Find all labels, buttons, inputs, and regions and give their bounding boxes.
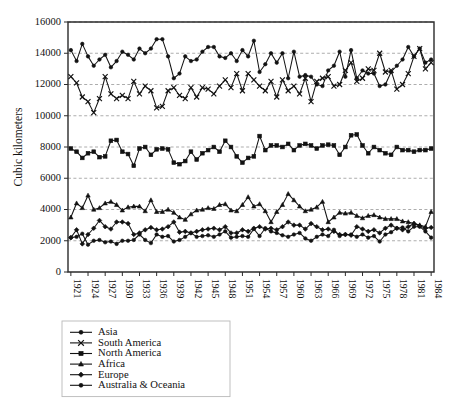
x-tick-label: 1936: [158, 279, 169, 298]
data-point-circle: [69, 48, 73, 52]
data-point-square: [241, 161, 245, 165]
x-tick-label: 1969: [347, 279, 358, 298]
data-point-square: [126, 152, 130, 156]
data-point-circle: [366, 236, 370, 240]
data-point-circle: [149, 47, 153, 51]
data-point-circle: [218, 55, 222, 59]
data-point-square: [86, 151, 90, 155]
data-point-circle: [92, 64, 96, 68]
data-point-square: [321, 144, 325, 148]
data-point-square: [161, 147, 165, 151]
data-point-circle: [126, 53, 130, 57]
data-point-square: [303, 142, 307, 146]
data-point-circle: [143, 238, 147, 242]
chart-legend: AsiaSouth AmericaNorth AmericaAfricaEuro…: [62, 321, 230, 397]
data-point-square: [178, 162, 182, 166]
data-point-square: [309, 144, 313, 148]
data-point-circle: [366, 72, 370, 76]
data-point-circle: [361, 69, 365, 73]
data-point-circle: [378, 240, 382, 244]
data-point-circle: [166, 55, 170, 59]
data-point-square: [109, 139, 113, 143]
data-point-circle: [412, 225, 416, 229]
legend-label: South America: [98, 337, 162, 348]
data-point-circle: [326, 234, 330, 238]
data-point-circle: [395, 64, 399, 68]
data-point-circle: [241, 48, 245, 52]
data-point-square: [263, 148, 267, 152]
y-tick-label: 0: [56, 266, 61, 277]
data-point-circle: [92, 239, 96, 243]
y-tick-label: 16000: [35, 16, 61, 27]
data-point-square: [183, 159, 187, 163]
data-point-square: [326, 143, 330, 147]
data-point-circle: [103, 241, 107, 245]
data-point-circle: [309, 75, 313, 79]
data-point-circle: [389, 230, 393, 234]
data-point-square: [366, 151, 370, 155]
data-point-circle: [264, 62, 268, 66]
y-axis-title: Cubic kilometers: [12, 107, 24, 186]
x-tick-label: 1978: [398, 279, 409, 298]
x-tick-label: 1975: [381, 279, 392, 298]
data-point-circle: [384, 233, 388, 237]
data-point-circle: [424, 230, 428, 234]
data-point-circle: [407, 230, 411, 234]
legend-label: Europe: [98, 369, 129, 380]
chart-figure: 0200040006000800010000120001400016000 19…: [0, 0, 455, 404]
data-point-square: [269, 144, 273, 148]
data-point-circle: [241, 234, 245, 238]
data-point-circle: [246, 55, 250, 59]
data-point-square: [292, 148, 296, 152]
data-point-circle: [143, 51, 147, 55]
data-point-square: [338, 153, 342, 157]
data-point-circle: [344, 233, 348, 237]
data-point-circle: [281, 51, 285, 55]
data-point-circle: [218, 233, 222, 237]
data-point-circle: [166, 234, 170, 238]
data-point-circle: [224, 230, 228, 234]
data-point-circle: [298, 75, 302, 79]
data-point-square: [172, 161, 176, 165]
data-point-circle: [252, 39, 256, 43]
data-point-circle: [275, 61, 279, 65]
data-point-circle: [315, 235, 319, 239]
data-point-square: [69, 147, 73, 151]
data-point-circle: [286, 235, 290, 239]
x-tick-label: 1954: [261, 279, 272, 298]
data-point-circle: [321, 84, 325, 88]
y-tick-label: 14000: [35, 47, 61, 58]
data-point-circle: [258, 234, 262, 238]
data-point-circle: [172, 76, 176, 80]
data-point-circle: [286, 76, 290, 80]
line-chart: 0200040006000800010000120001400016000 19…: [0, 0, 455, 404]
data-point-circle: [401, 58, 405, 62]
data-point-square: [206, 148, 210, 152]
data-point-square: [401, 148, 405, 152]
data-point-circle: [75, 59, 79, 63]
data-point-circle: [183, 235, 187, 239]
data-point-circle: [298, 231, 302, 235]
data-point-circle: [338, 234, 342, 238]
data-point-square: [75, 150, 79, 154]
data-point-square: [349, 133, 353, 137]
data-point-square: [355, 133, 359, 137]
data-point-circle: [292, 233, 296, 237]
data-point-circle: [349, 233, 353, 237]
data-point-square: [132, 164, 136, 168]
x-tick-label: 1948: [227, 279, 238, 298]
data-point-square: [79, 351, 83, 355]
data-point-circle: [201, 234, 205, 238]
data-point-circle: [155, 37, 159, 41]
data-point-circle: [355, 235, 359, 239]
data-point-circle: [161, 235, 165, 239]
data-point-circle: [372, 234, 376, 238]
x-tick-label: 1921: [72, 279, 83, 298]
x-tick-label: 1957: [278, 279, 289, 298]
data-point-square: [424, 148, 428, 152]
data-point-square: [166, 147, 170, 151]
x-tick-label: 1933: [141, 279, 152, 298]
data-point-circle: [252, 227, 256, 231]
legend-label: North America: [98, 347, 162, 358]
x-tick-label: 1942: [193, 279, 204, 298]
